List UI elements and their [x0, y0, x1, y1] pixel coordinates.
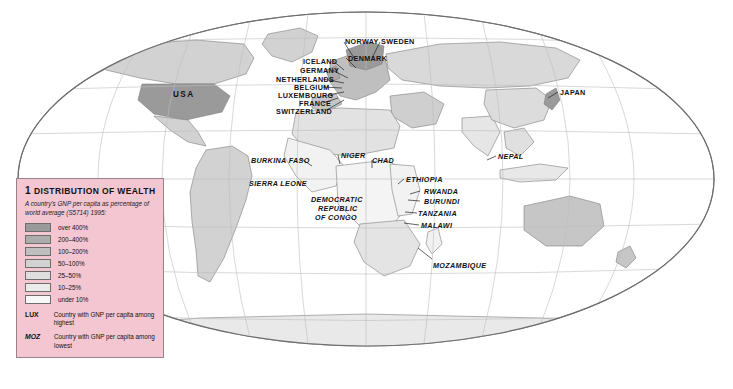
legend-class-row: 25–50% — [25, 270, 156, 281]
legend-code-list: LUXCountry with GNP per capita among hig… — [25, 311, 156, 350]
map-label: NIGER — [341, 152, 366, 159]
map-label: DEMOCRATIC — [311, 196, 363, 203]
map-label: MOZAMBIQUE — [433, 262, 486, 269]
legend-swatch — [25, 295, 51, 304]
legend-panel: 1Distribution of wealth A country's GNP … — [16, 178, 164, 358]
legend-class-row: 10–25% — [25, 282, 156, 293]
legend-class-label: 50–100% — [58, 260, 85, 267]
map-label: USA — [173, 91, 195, 99]
legend-class-row: over 400% — [25, 222, 156, 233]
map-label: SWITZERLAND — [276, 108, 332, 115]
legend-swatch — [25, 283, 51, 292]
map-label: RWANDA — [424, 188, 458, 195]
map-label: GERMANY — [300, 67, 339, 74]
legend-class-label: under 10% — [58, 296, 88, 303]
map-label: DENMARK — [348, 55, 387, 62]
legend-class-label: 25–50% — [58, 272, 81, 279]
map-label: BURKINA FASO — [251, 157, 310, 164]
map-label: NEPAL — [498, 153, 524, 160]
legend-class-row: 200–400% — [25, 234, 156, 245]
map-label: BURUNDI — [424, 198, 460, 205]
legend-class-list: over 400%200–400%100–200%50–100%25–50%10… — [25, 222, 156, 305]
map-label: JAPAN — [560, 89, 586, 96]
legend-code-text: Country with GNP per capita among highes… — [54, 311, 156, 327]
legend-swatch — [25, 223, 51, 232]
legend-code-row: LUXCountry with GNP per capita among hig… — [25, 311, 156, 327]
world-map: USANORWAYSWEDENICELANDDENMARKGERMANYNETH… — [0, 0, 733, 389]
legend-class-label: over 400% — [58, 224, 88, 231]
map-label: SWEDEN — [381, 38, 415, 45]
legend-swatch — [25, 259, 51, 268]
legend-class-label: 10–25% — [58, 284, 81, 291]
map-label: MALAWI — [421, 222, 452, 229]
legend-code-row: MOZCountry with GNP per capita among low… — [25, 333, 156, 349]
map-label: ETHIOPIA — [406, 176, 443, 183]
map-label: REPUBLIC — [318, 205, 358, 212]
map-label: CHAD — [372, 157, 394, 164]
map-label: TANZANIA — [418, 210, 457, 217]
legend-class-label: 200–400% — [58, 236, 88, 243]
map-label: NORWAY — [345, 38, 379, 45]
legend-code: LUX — [25, 311, 47, 319]
legend-swatch — [25, 235, 51, 244]
legend-title-text: Distribution of wealth — [34, 186, 156, 196]
legend-class-label: 100–200% — [58, 248, 88, 255]
map-label: ICELAND — [303, 58, 337, 65]
legend-title: 1Distribution of wealth — [25, 185, 156, 196]
legend-subtitle: A country's GNP per capita as percentage… — [25, 200, 156, 217]
legend-code: MOZ — [25, 333, 47, 341]
legend-swatch — [25, 271, 51, 280]
legend-class-row: 50–100% — [25, 258, 156, 269]
legend-code-text: Country with GNP per capita among lowest — [54, 333, 156, 349]
legend-swatch — [25, 247, 51, 256]
legend-class-row: 100–200% — [25, 246, 156, 257]
map-label: SIERRA LEONE — [249, 180, 307, 187]
land-russia — [386, 42, 580, 88]
legend-class-row: under 10% — [25, 294, 156, 305]
map-label: OF CONGO — [315, 214, 357, 221]
legend-number: 1 — [25, 185, 31, 196]
